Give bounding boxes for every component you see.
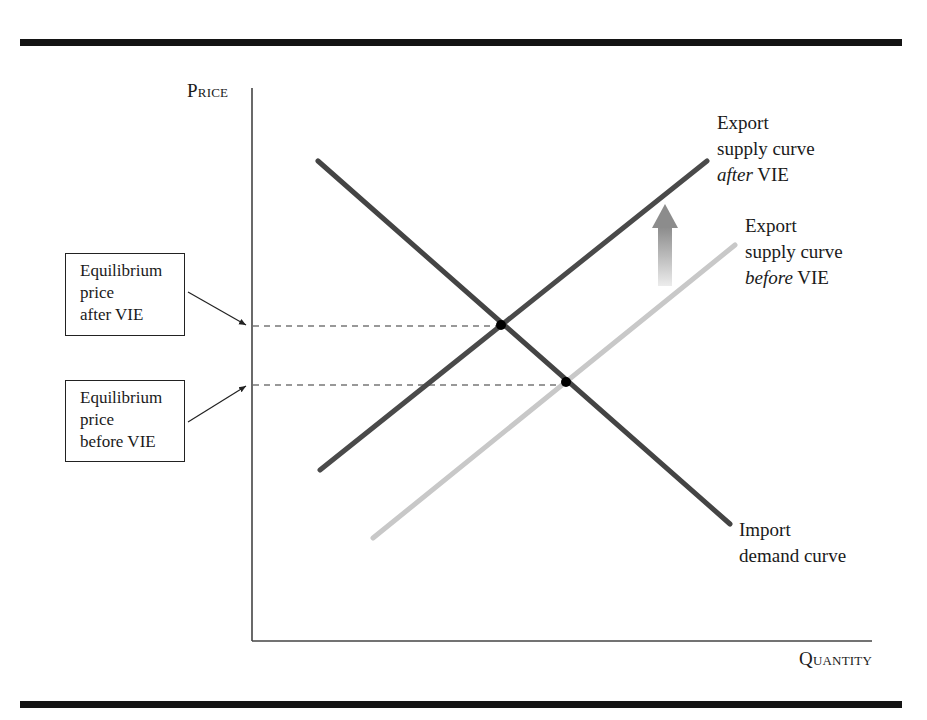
label-emphasis: before	[745, 267, 793, 288]
label-supply-after: Export supply curve after VIE	[717, 110, 815, 188]
plot-area	[0, 0, 927, 720]
callout-line: price	[80, 409, 184, 431]
callout-line: before VIE	[80, 431, 184, 453]
label-line: before VIE	[745, 265, 843, 291]
label-emphasis: after	[717, 164, 753, 185]
label-demand: Import demand curve	[739, 517, 846, 569]
label-line: Export	[717, 110, 815, 136]
label-line: Export	[745, 213, 843, 239]
callout-line: after VIE	[80, 304, 184, 326]
label-rest: VIE	[793, 267, 829, 288]
label-line: supply curve	[745, 239, 843, 265]
x-axis-label: Quantity	[799, 648, 872, 670]
y-axis-label: Price	[187, 80, 228, 102]
label-line: supply curve	[717, 136, 815, 162]
callout-pointer-before	[188, 386, 246, 422]
equilibrium-point-after	[496, 320, 506, 330]
label-line: Import	[739, 517, 846, 543]
callout-line: Equilibrium	[80, 260, 184, 282]
callout-box-equilibrium-before: Equilibrium price before VIE	[65, 380, 185, 462]
label-line: after VIE	[717, 162, 815, 188]
supply-curve-before	[373, 245, 735, 538]
callout-line: price	[80, 282, 184, 304]
callout-pointer-after	[188, 292, 246, 325]
label-rest: VIE	[753, 164, 789, 185]
equilibrium-point-before	[561, 377, 571, 387]
callout-line: Equilibrium	[80, 387, 184, 409]
label-supply-before: Export supply curve before VIE	[745, 213, 843, 291]
shift-arrow-icon	[652, 204, 678, 286]
figure: Price Quantity Export supply curve after…	[0, 0, 927, 720]
callout-box-equilibrium-after: Equilibrium price after VIE	[65, 253, 185, 336]
label-line: demand curve	[739, 543, 846, 569]
